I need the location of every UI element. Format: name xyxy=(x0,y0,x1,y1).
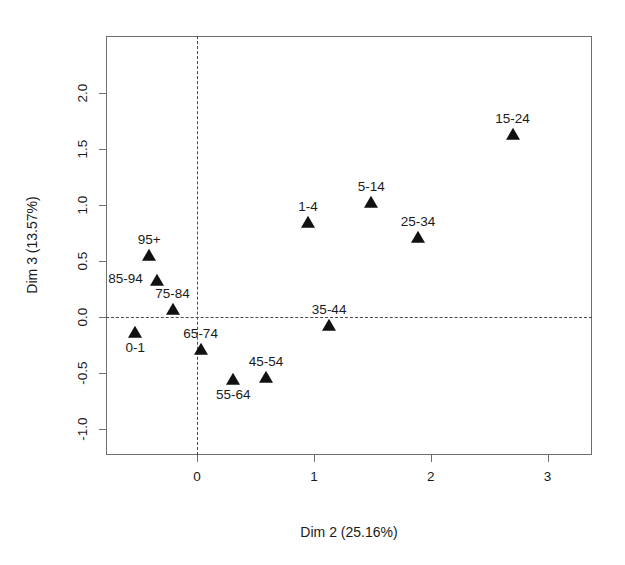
data-point-marker[interactable] xyxy=(301,216,315,228)
y-axis-tick-label: 2.0 xyxy=(75,84,90,103)
y-axis-tick-label: -0.5 xyxy=(75,362,90,385)
y-axis-tick-mark xyxy=(99,93,106,94)
data-point-marker[interactable] xyxy=(364,196,378,208)
y-axis-tick-label: 1.5 xyxy=(75,140,90,159)
x-axis-tick-label: 1 xyxy=(310,469,318,484)
x-axis-title: Dim 2 (25.16%) xyxy=(300,524,397,540)
x-axis-tick-label: 3 xyxy=(544,469,552,484)
data-point-label: 15-24 xyxy=(495,111,530,126)
data-point-marker[interactable] xyxy=(150,274,164,286)
y-axis-tick-mark xyxy=(99,373,106,374)
data-point-label: 45-54 xyxy=(249,354,284,369)
y-axis-tick-mark xyxy=(99,429,106,430)
data-point-label: 85-94 xyxy=(108,271,143,286)
y-axis-tick-mark xyxy=(99,261,106,262)
data-point-marker[interactable] xyxy=(506,127,520,139)
y-axis-tick-label: 0.5 xyxy=(75,252,90,271)
data-point-label: 35-44 xyxy=(312,302,347,317)
y-axis-tick-label: 0.0 xyxy=(75,308,90,327)
vertical-reference-line xyxy=(197,36,198,455)
data-point-marker[interactable] xyxy=(259,370,273,382)
data-point-label: 5-14 xyxy=(358,179,385,194)
data-point-marker[interactable] xyxy=(166,303,180,315)
x-axis-tick-label: 2 xyxy=(427,469,435,484)
y-axis-title: Dim 3 (13.57%) xyxy=(24,196,40,293)
data-point-label: 1-4 xyxy=(298,199,318,214)
data-point-label: 0-1 xyxy=(125,340,145,355)
horizontal-reference-line xyxy=(106,317,592,318)
data-point-label: 75-84 xyxy=(155,286,190,301)
data-point-marker[interactable] xyxy=(226,373,240,385)
data-point-label: 25-34 xyxy=(401,214,436,229)
data-point-marker[interactable] xyxy=(142,248,156,260)
y-axis-tick-mark xyxy=(99,149,106,150)
data-point-marker[interactable] xyxy=(411,230,425,242)
x-axis-tick-mark xyxy=(197,455,198,462)
x-axis-tick-mark xyxy=(314,455,315,462)
x-axis-tick-label: 0 xyxy=(193,469,201,484)
data-point-label: 95+ xyxy=(138,232,161,247)
data-point-label: 55-64 xyxy=(216,387,251,402)
y-axis-tick-label: -1.0 xyxy=(75,418,90,441)
data-point-marker[interactable] xyxy=(322,319,336,331)
y-axis-tick-label: 1.0 xyxy=(75,196,90,215)
data-point-marker[interactable] xyxy=(128,326,142,338)
x-axis-tick-mark xyxy=(548,455,549,462)
data-point-marker[interactable] xyxy=(194,342,208,354)
scatter-plot-figure: 0123 -1.0-0.50.00.51.01.52.0 15-245-1425… xyxy=(0,0,625,565)
x-axis-tick-mark xyxy=(431,455,432,462)
plot-area-frame xyxy=(106,36,592,455)
y-axis-tick-mark xyxy=(99,317,106,318)
y-axis-tick-mark xyxy=(99,205,106,206)
data-point-label: 65-74 xyxy=(183,326,218,341)
